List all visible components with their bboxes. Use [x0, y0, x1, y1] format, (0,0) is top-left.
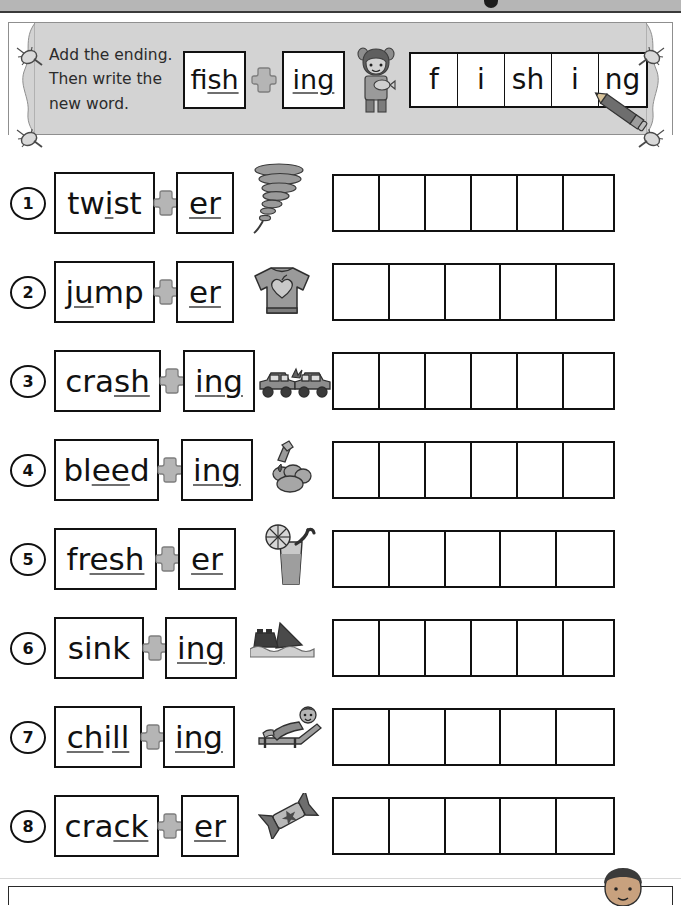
- suffix-text: er: [189, 277, 221, 308]
- answer-cell[interactable]: [557, 532, 613, 586]
- answer-cell[interactable]: [334, 176, 380, 230]
- answer-grid[interactable]: [332, 530, 615, 588]
- question-row: 6 sink ing: [0, 605, 681, 691]
- answer-grid[interactable]: [332, 352, 615, 410]
- base-word-text: bleed: [63, 455, 149, 486]
- answer-cell[interactable]: [334, 621, 380, 675]
- pin-icon: [636, 127, 666, 153]
- base-word-box: crash: [54, 350, 161, 412]
- example-answer-cell: sh: [505, 54, 552, 106]
- answer-cell[interactable]: [557, 799, 613, 853]
- question-row: 4 bleed ing: [0, 427, 681, 513]
- suffix-box: ing: [181, 439, 253, 501]
- answer-cell[interactable]: [334, 354, 380, 408]
- girl-with-fish-icon: [354, 45, 398, 115]
- answer-cell[interactable]: [426, 621, 472, 675]
- answer-cell[interactable]: [472, 443, 518, 497]
- suffix-text: ing: [195, 366, 243, 397]
- base-word-text: crack: [65, 811, 149, 842]
- answer-cell[interactable]: [518, 443, 564, 497]
- car-crash-icon: [258, 363, 332, 405]
- answer-cell[interactable]: [390, 265, 446, 319]
- example-answer-cell: f: [411, 54, 458, 106]
- answer-grid[interactable]: [332, 797, 615, 855]
- person-on-lounger-icon: [251, 704, 327, 754]
- answer-cell[interactable]: [501, 532, 557, 586]
- answer-cell[interactable]: [334, 532, 390, 586]
- answer-cell[interactable]: [564, 176, 610, 230]
- answer-cell[interactable]: [380, 621, 426, 675]
- instruction-line-2: Then write the: [49, 67, 183, 91]
- answer-cell[interactable]: [472, 354, 518, 408]
- base-word-box: twist: [54, 172, 155, 234]
- answer-grid[interactable]: [332, 263, 615, 321]
- base-word-box: fresh: [54, 528, 157, 590]
- answer-grid[interactable]: [332, 619, 615, 677]
- answer-cell[interactable]: [426, 443, 472, 497]
- answer-cell[interactable]: [390, 799, 446, 853]
- answer-grid[interactable]: [332, 174, 615, 232]
- plus-cross-icon: [157, 457, 183, 487]
- answer-cell[interactable]: [564, 354, 610, 408]
- suffix-text: ing: [177, 633, 225, 664]
- answer-cell[interactable]: [446, 799, 502, 853]
- answer-cell[interactable]: [557, 710, 613, 764]
- suffix-text: ing: [175, 722, 223, 753]
- suffix-text: er: [194, 811, 226, 842]
- answer-cell[interactable]: [446, 532, 502, 586]
- answer-cell[interactable]: [334, 799, 390, 853]
- answer-cell[interactable]: [380, 354, 426, 408]
- suffix-box: ing: [183, 350, 255, 412]
- question-row: 7 chill ing: [0, 694, 681, 780]
- answer-cell[interactable]: [426, 354, 472, 408]
- answer-cell[interactable]: [472, 176, 518, 230]
- answer-cell[interactable]: [334, 443, 380, 497]
- suffix-text: er: [191, 544, 223, 575]
- answer-cell[interactable]: [390, 710, 446, 764]
- suffix-box: ing: [165, 617, 237, 679]
- answer-grid[interactable]: [332, 441, 615, 499]
- child-head-icon: [596, 866, 650, 906]
- pin-icon: [15, 45, 45, 71]
- answer-cell[interactable]: [446, 710, 502, 764]
- footer-divider: [0, 878, 681, 879]
- base-word-box: crack: [54, 795, 159, 857]
- instruction-line-3: new word.: [49, 92, 183, 116]
- base-word-text: jump: [65, 277, 143, 308]
- suffix-box: ing: [163, 706, 235, 768]
- suffix-box: er: [176, 172, 234, 234]
- answer-grid[interactable]: [332, 708, 615, 766]
- answer-cell[interactable]: [380, 443, 426, 497]
- answer-cell[interactable]: [518, 354, 564, 408]
- answer-cell[interactable]: [564, 621, 610, 675]
- base-word-text: chill: [67, 722, 130, 753]
- answer-cell[interactable]: [334, 710, 390, 764]
- footer-box: [8, 886, 673, 905]
- suffix-box: er: [178, 528, 236, 590]
- answer-cell[interactable]: [446, 265, 502, 319]
- answer-cell[interactable]: [472, 621, 518, 675]
- bleeding-finger-icon: [262, 440, 316, 502]
- answer-cell[interactable]: [518, 621, 564, 675]
- answer-cell[interactable]: [501, 710, 557, 764]
- question-row: 1 twist er: [0, 160, 681, 246]
- answer-cell[interactable]: [564, 443, 610, 497]
- page-top-bar: [0, 0, 681, 13]
- answer-cell[interactable]: [390, 532, 446, 586]
- question-number-badge: 3: [10, 365, 46, 398]
- question-number-badge: 7: [10, 721, 46, 754]
- question-number-badge: 6: [10, 632, 46, 665]
- answer-cell[interactable]: [334, 265, 390, 319]
- answer-cell[interactable]: [557, 265, 613, 319]
- answer-cell[interactable]: [380, 176, 426, 230]
- question-number-badge: 8: [10, 810, 46, 843]
- suffix-text: ing: [193, 455, 241, 486]
- question-number-badge: 1: [10, 187, 46, 220]
- answer-cell[interactable]: [518, 176, 564, 230]
- answer-cell[interactable]: [426, 176, 472, 230]
- question-number-badge: 4: [10, 454, 46, 487]
- worked-example: fish ing: [183, 45, 648, 115]
- answer-cell[interactable]: [501, 799, 557, 853]
- top-bar-nub-icon: [484, 0, 498, 8]
- answer-cell[interactable]: [501, 265, 557, 319]
